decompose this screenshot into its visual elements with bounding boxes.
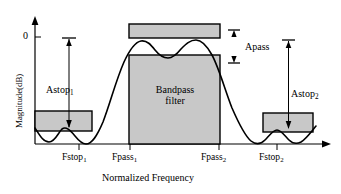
xtick-label-fstop2-text: Fstop [259,152,280,162]
x-axis-arrowhead [322,141,331,148]
ytick-zero-label: 0 [23,30,28,41]
astop2-label-text: Astop [291,88,315,99]
astop1-label-text: Astop [46,84,70,95]
xtick-label-fstop1-text: Fstop [62,152,83,162]
passband-box-label: Bandpass filter [148,84,202,106]
passband-mask-upper [129,24,220,38]
xtick-label-fstop2-sub: 2 [280,156,283,163]
xtick-label-fpass1: Fpass1 [112,152,137,162]
astop1-label-sub: 1 [70,89,74,97]
xtick-label-fpass2-text: Fpass [201,152,223,162]
y-axis-label: Magnitude(dB) [14,74,24,128]
apass-arrowhead-up [231,30,236,37]
astop1-arrowhead-up [66,39,72,46]
xtick-label-fstop1: Fstop1 [62,152,87,162]
xtick-label-fpass2: Fpass2 [201,152,226,162]
xtick-label-fpass1-text: Fpass [112,152,134,162]
astop2-label: Astop2 [291,88,319,99]
apass-label-text: Apass [245,41,269,52]
xtick-label-fpass1-sub: 1 [134,156,137,163]
xtick-label-fstop1-sub: 1 [83,156,86,163]
apass-label: Apass [245,41,269,52]
x-axis-label: Normalized Frequency [102,172,194,183]
xtick-label-fpass2-sub: 2 [223,156,226,163]
apass-arrowhead-down [231,56,236,63]
astop2-label-sub: 2 [315,93,319,101]
passband-box-label-line2: filter [148,95,202,106]
astop1-label: Astop1 [46,84,74,95]
xtick-label-fstop2: Fstop2 [259,152,284,162]
astop2-arrowhead-up [286,41,292,48]
figure-container: Magnitude(dB) 0 Astop1 Apass Astop2 Band… [0,0,341,194]
y-axis-arrowhead [32,16,39,25]
passband-box-label-line1: Bandpass [148,84,202,95]
apass-measure [228,30,240,63]
